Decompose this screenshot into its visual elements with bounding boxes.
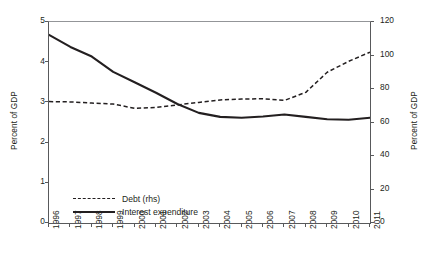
legend-swatch-dashed-icon xyxy=(73,195,115,203)
right-tick-label-100: 100 xyxy=(380,50,394,58)
right-axis-title: Percent of GDP xyxy=(410,79,419,163)
left-axis-title: Percent of GDP xyxy=(10,79,19,163)
right-tick-label-40: 40 xyxy=(380,150,389,158)
legend-swatch-solid-icon xyxy=(73,208,115,216)
chart-figure: Percent of GDP Percent of GDP 012345 020… xyxy=(0,0,424,275)
right-tick-label-80: 80 xyxy=(380,83,389,91)
right-tick-label-120: 120 xyxy=(380,16,394,24)
chart-legend: Debt (rhs) Interest expenditure xyxy=(73,192,198,218)
legend-label-debt: Debt (rhs) xyxy=(122,194,160,204)
right-tick-label-20: 20 xyxy=(380,184,389,192)
legend-item-debt: Debt (rhs) xyxy=(73,192,198,205)
x-tick-label-2011: 2011 xyxy=(373,211,381,229)
legend-label-interest-expenditure: Interest expenditure xyxy=(122,207,198,217)
right-tick-label-60: 60 xyxy=(380,117,389,125)
legend-item-interest-expenditure: Interest expenditure xyxy=(73,205,198,218)
